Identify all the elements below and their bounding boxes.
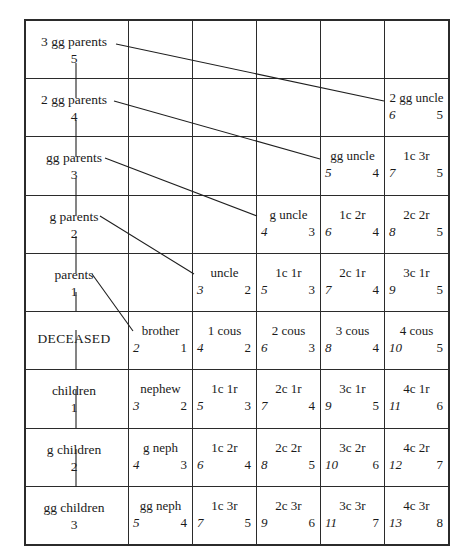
lineal-cell-children: children 1 <box>26 370 129 428</box>
relation-cell: 2c 1r 7 4 <box>321 253 385 311</box>
relation-cell <box>257 79 321 137</box>
relation-cell <box>129 79 193 137</box>
table-row: g parents 2 g <box>26 195 449 253</box>
civil-degree: 4 <box>261 224 268 239</box>
lineal-cell-gg-parents: gg parents 3 <box>26 137 129 195</box>
relation-cell <box>385 21 449 79</box>
relation-name: 1c 3r <box>385 148 448 163</box>
relation-cell-gg-uncle: gg uncle 5 4 <box>321 137 385 195</box>
civil-degree: 10 <box>389 340 402 355</box>
relation-cell-brother: brother 2 1 <box>129 312 193 370</box>
civil-degree: 3 <box>197 282 204 297</box>
relation-degrees: 13 8 <box>389 515 443 530</box>
relation-cell: 1c 3r 7 5 <box>385 137 449 195</box>
relation-name: 2c 2r <box>385 207 448 222</box>
civil-degree: 10 <box>325 457 338 472</box>
table-row: DECEASED brother 2 1 1 cous 4 2 <box>26 312 449 370</box>
relation-cell <box>193 137 257 195</box>
canon-degree: 3 <box>245 398 252 413</box>
relation-degrees: 11 7 <box>325 515 379 530</box>
relation-degrees: 6 3 <box>261 340 315 355</box>
relation-cell: 4c 2r 12 7 <box>385 428 449 486</box>
relation-cell-uncle: uncle 3 2 <box>193 253 257 311</box>
relation-name: 1 cous <box>193 323 256 338</box>
canon-degree: 6 <box>373 457 380 472</box>
relation-degrees: 9 5 <box>389 282 443 297</box>
kinship-chart: 3 gg parents 5 <box>0 0 469 556</box>
canon-degree: 4 <box>373 165 380 180</box>
relation-degrees: 9 6 <box>261 515 315 530</box>
relation-cell <box>129 137 193 195</box>
relation-name: 1c 1r <box>193 381 256 396</box>
relation-cell: 4 cous 10 5 <box>385 312 449 370</box>
canon-degree: 4 <box>373 340 380 355</box>
relation-degrees: 4 3 <box>261 224 315 239</box>
civil-degree: 7 <box>325 282 332 297</box>
civil-degree: 13 <box>389 515 402 530</box>
civil-degree: 7 <box>389 165 396 180</box>
canon-degree: 5 <box>437 224 444 239</box>
relation-degrees: 10 6 <box>325 457 379 472</box>
relation-name: 2c 2r <box>257 440 320 455</box>
canon-degree: 3 <box>181 457 188 472</box>
relation-cell <box>129 195 193 253</box>
canon-degree: 3 <box>309 224 316 239</box>
lineal-label: 2 gg parents <box>26 92 122 107</box>
canon-degree: 5 <box>437 282 444 297</box>
table-row: g children 2 g neph 4 3 1c 2r 6 4 <box>26 428 449 486</box>
canon-degree: 3 <box>309 282 316 297</box>
relation-cell: 1c 1r 5 3 <box>257 253 321 311</box>
lineal-label: g parents <box>26 209 122 224</box>
relation-cell: 3 cous 8 4 <box>321 312 385 370</box>
canon-degree: 5 <box>437 340 444 355</box>
canon-degree: 4 <box>309 398 316 413</box>
relation-cell <box>193 21 257 79</box>
relation-cell: 3c 1r 9 5 <box>321 370 385 428</box>
relation-cell: 4c 3r 13 8 <box>385 486 449 544</box>
relation-cell-nephew: nephew 3 2 <box>129 370 193 428</box>
relation-degrees: 5 3 <box>261 282 315 297</box>
relation-cell: 2c 1r 7 4 <box>257 370 321 428</box>
relation-cell: 1c 3r 7 5 <box>193 486 257 544</box>
relation-cell-g-uncle: g uncle 4 3 <box>257 195 321 253</box>
lineal-cell-g-parents: g parents 2 <box>26 195 129 253</box>
canon-degree: 1 <box>181 340 188 355</box>
lineal-degree: 1 <box>26 400 122 415</box>
canon-degree: 7 <box>373 515 380 530</box>
relation-degrees: 5 4 <box>325 165 379 180</box>
relation-degrees: 3 2 <box>133 398 187 413</box>
canon-degree: 8 <box>437 515 444 530</box>
relation-degrees: 6 5 <box>389 107 443 122</box>
lineal-degree: 5 <box>26 51 122 66</box>
relation-degrees: 7 4 <box>325 282 379 297</box>
relation-name: g neph <box>129 440 192 455</box>
relation-name: 3c 1r <box>321 381 384 396</box>
relation-name: 3c 2r <box>321 440 384 455</box>
relation-cell: 4c 1r 11 6 <box>385 370 449 428</box>
relation-degrees: 7 5 <box>389 165 443 180</box>
table-row: children 1 nephew 3 2 1c 1r 5 3 <box>26 370 449 428</box>
lineal-degree: 3 <box>26 517 122 532</box>
relation-name: 4c 3r <box>385 498 448 513</box>
canon-degree: 5 <box>373 398 380 413</box>
relation-cell: 2 cous 6 3 <box>257 312 321 370</box>
lineal-label: children <box>26 383 122 398</box>
relation-degrees: 7 4 <box>261 398 315 413</box>
relation-cell <box>321 21 385 79</box>
relation-name: brother <box>129 323 192 338</box>
canon-degree: 4 <box>373 282 380 297</box>
relation-cell: 3c 1r 9 5 <box>385 253 449 311</box>
relation-degrees: 6 4 <box>325 224 379 239</box>
lineal-cell-3-gg-parents: 3 gg parents 5 <box>26 21 129 79</box>
relation-cell <box>129 21 193 79</box>
relation-degrees: 8 5 <box>261 457 315 472</box>
relation-degrees: 7 5 <box>197 515 251 530</box>
relation-degrees: 8 5 <box>389 224 443 239</box>
relation-cell: 1 cous 4 2 <box>193 312 257 370</box>
relation-cell-2-gg-uncle: 2 gg uncle 6 5 <box>385 79 449 137</box>
relation-name: 2 gg uncle <box>385 90 448 105</box>
relation-name: 1c 2r <box>193 440 256 455</box>
relation-cell: 1c 2r 6 4 <box>193 428 257 486</box>
relation-name: 2c 1r <box>321 265 384 280</box>
relation-cell: 1c 1r 5 3 <box>193 370 257 428</box>
